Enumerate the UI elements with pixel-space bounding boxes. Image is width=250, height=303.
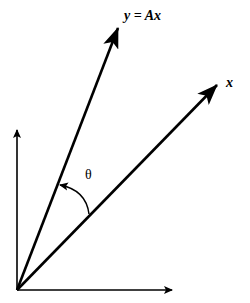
vector-x-label: x [226,76,233,90]
angle-theta-label: θ [85,168,92,182]
vector-y-arrow [17,28,118,290]
angle-arc [60,185,89,214]
diagram-canvas: y = Ax x θ [0,0,250,303]
diagram-svg [0,0,250,303]
vector-x-arrow [17,85,217,290]
vector-y-label: y = Ax [124,9,161,23]
